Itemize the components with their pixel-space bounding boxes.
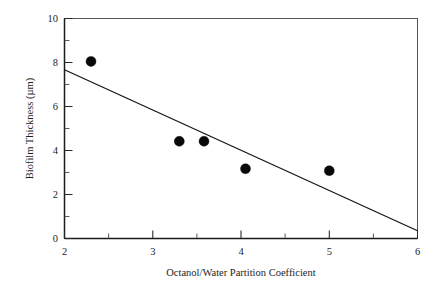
x-tick-label: 5 xyxy=(327,246,332,257)
y-tick-label: 0 xyxy=(53,233,58,244)
y-axis-title: Biofilm Thickness (µm) xyxy=(24,77,36,179)
data-point xyxy=(241,164,251,174)
y-tick-label: 10 xyxy=(48,13,59,24)
figure-canvas: 0 2 4 6 8 10 2 3 4 5 6 Octanol/Water Par… xyxy=(0,0,442,288)
scatter-plot-svg: 0 2 4 6 8 10 2 3 4 5 6 Octanol/Water Par… xyxy=(0,0,442,288)
plot-area-frame xyxy=(65,19,418,239)
data-point xyxy=(324,166,334,176)
x-tick-label: 6 xyxy=(415,246,420,257)
y-tick-label: 4 xyxy=(53,145,59,156)
data-point xyxy=(174,136,184,146)
x-tick-label: 4 xyxy=(238,246,244,257)
x-axis-title: Octanol/Water Partition Coefficient xyxy=(166,267,315,278)
y-tick-label: 2 xyxy=(53,189,58,200)
x-tick-label: 3 xyxy=(150,246,155,257)
y-tick-label: 6 xyxy=(53,101,58,112)
x-tick-label: 2 xyxy=(62,246,67,257)
data-point xyxy=(86,56,96,66)
y-tick-label: 8 xyxy=(53,57,58,68)
data-point xyxy=(199,136,209,146)
